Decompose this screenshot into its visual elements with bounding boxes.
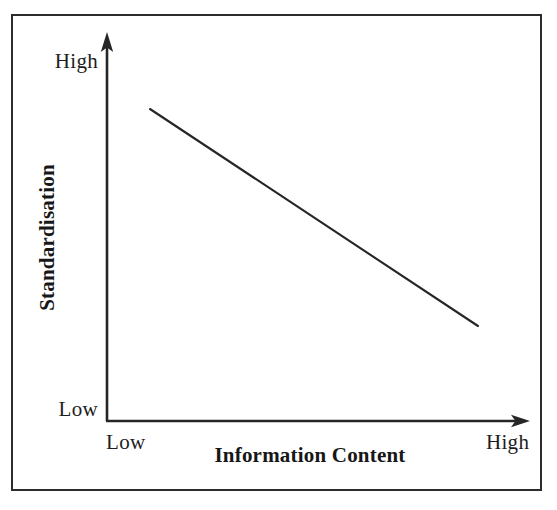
- x-axis-tick-low: Low: [106, 432, 145, 453]
- y-axis-tick-low: Low: [48, 399, 98, 420]
- x-axis-title: Information Content: [160, 445, 460, 466]
- plot-canvas: [0, 0, 557, 510]
- y-axis-title: Standardisation: [37, 128, 58, 348]
- data-series-trade-off: [150, 109, 478, 326]
- x-axis-tick-high: High: [486, 432, 529, 453]
- figure-container: High Low Low High Information Content St…: [0, 0, 557, 510]
- y-axis-tick-high: High: [48, 51, 98, 72]
